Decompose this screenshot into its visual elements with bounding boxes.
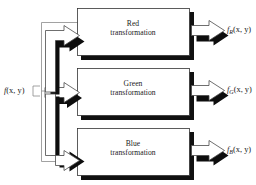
output-label-green: fG(x, y) bbox=[227, 85, 252, 95]
red-box[interactable] bbox=[78, 9, 190, 56]
arrow-to-red bbox=[46, 26, 80, 93]
output-label-green-args: (x, y) bbox=[234, 85, 252, 94]
output-arrow-green-group bbox=[192, 81, 229, 106]
blue-transformation-box-group bbox=[78, 129, 195, 181]
input-label-args: (x, y) bbox=[6, 86, 24, 95]
rgb-transformation-diagram: f(x, y) Red transformation Green transfo… bbox=[0, 0, 256, 185]
red-transformation-box-group bbox=[78, 9, 195, 61]
arrow-to-blue bbox=[46, 94, 80, 171]
output-label-red-args: (x, y) bbox=[233, 25, 251, 34]
input-label: f(x, y) bbox=[4, 86, 24, 95]
output-label-blue: fB(x, y) bbox=[227, 145, 251, 155]
output-arrow-red-group bbox=[192, 21, 229, 46]
green-transformation-box-group bbox=[78, 69, 195, 121]
green-box[interactable] bbox=[78, 69, 190, 116]
output-label-blue-args: (x, y) bbox=[233, 145, 251, 154]
input-stub-connector bbox=[33, 86, 40, 96]
diagram-canvas bbox=[0, 0, 256, 185]
blue-box[interactable] bbox=[78, 129, 190, 176]
output-arrow-blue-group bbox=[192, 141, 229, 166]
output-label-red: fR(x, y) bbox=[227, 25, 251, 35]
